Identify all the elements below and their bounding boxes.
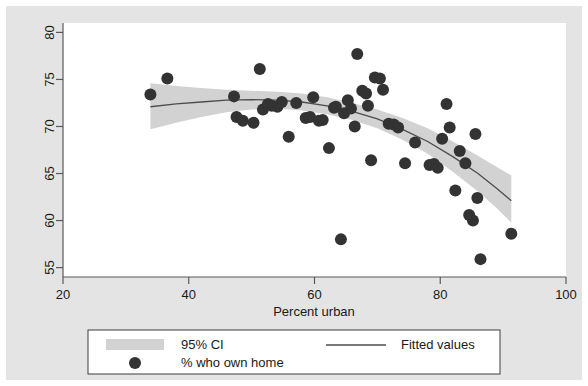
scatter-point: [454, 145, 466, 157]
scatter-point: [307, 91, 319, 103]
x-axis-title: Percent urban: [273, 304, 355, 319]
scatter-point: [471, 192, 483, 204]
scatter-point: [237, 115, 249, 127]
chart-panel: 556065707580 20406080100 Percent urban 9…: [6, 6, 582, 380]
scatter-point: [345, 103, 357, 115]
scatter-point: [467, 215, 479, 227]
y-tick-label: 65: [43, 166, 58, 180]
scatter-point: [290, 97, 302, 109]
x-tick-label: 80: [433, 287, 447, 302]
scatter-point: [335, 233, 347, 245]
scatter-point: [459, 157, 471, 169]
scatter-point: [399, 157, 411, 169]
figure-container: 556065707580 20406080100 Percent urban 9…: [0, 0, 588, 386]
scatter-point: [432, 162, 444, 174]
scatter-point: [474, 253, 486, 265]
x-tick-label: 40: [182, 287, 196, 302]
scatter-point: [323, 142, 335, 154]
scatter-point: [351, 48, 363, 60]
scatter-point: [449, 184, 461, 196]
x-tick-label: 100: [555, 287, 577, 302]
y-tick-labels-group: 556065707580: [43, 25, 58, 275]
legend-swatch-ci: [106, 339, 164, 350]
legend-swatch-points: [129, 357, 141, 369]
legend: 95% CI Fitted values % who own home: [88, 330, 500, 374]
scatter-point: [283, 131, 295, 143]
x-tick-label: 20: [56, 287, 70, 302]
scatter-point: [469, 128, 481, 140]
scatter-point: [441, 98, 453, 110]
x-tick-label: 60: [307, 287, 321, 302]
scatter-point: [248, 117, 260, 129]
scatter-point: [161, 73, 173, 85]
scatter-point: [362, 100, 374, 112]
scatter-point: [377, 84, 389, 96]
scatter-point: [409, 136, 421, 148]
y-tick-label: 60: [43, 213, 58, 227]
legend-label-ci: 95% CI: [181, 337, 224, 352]
scatter-point: [276, 96, 288, 108]
y-tick-label: 80: [43, 25, 58, 39]
scatter-point: [444, 121, 456, 133]
legend-label-points: % who own home: [181, 355, 284, 370]
scatter-point: [144, 89, 156, 101]
scatter-point: [505, 228, 517, 240]
scatter-point: [392, 121, 404, 133]
plot-area-background: [63, 23, 566, 277]
y-tick-label: 55: [43, 260, 58, 274]
scatter-plot-svg: 556065707580 20406080100 Percent urban 9…: [6, 6, 582, 380]
scatter-point: [436, 133, 448, 145]
scatter-point: [374, 73, 386, 85]
y-tick-label: 70: [43, 119, 58, 133]
scatter-point: [254, 63, 266, 75]
scatter-point: [349, 120, 361, 132]
scatter-point: [365, 154, 377, 166]
legend-label-fitted: Fitted values: [401, 337, 475, 352]
scatter-point: [228, 90, 240, 102]
y-tick-label: 75: [43, 72, 58, 86]
x-tick-labels-group: 20406080100: [56, 287, 577, 302]
scatter-point: [360, 88, 372, 100]
scatter-point: [317, 114, 329, 126]
